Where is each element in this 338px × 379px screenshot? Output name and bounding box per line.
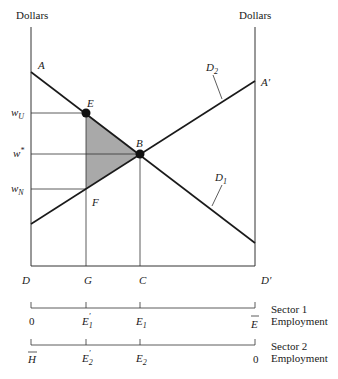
- sector1-title-line1: Sector 1: [271, 303, 307, 315]
- sector2-tick-E2-prime: E2′: [81, 349, 93, 367]
- sector1-title-line2: Employment: [271, 315, 328, 327]
- deadweight-loss-triangle: [86, 113, 140, 189]
- point-B-dot: [136, 150, 145, 159]
- sector2-title-line2: Employment: [271, 352, 328, 364]
- sector2-scale: [31, 339, 255, 345]
- sector1-tick-0: 0: [29, 315, 35, 327]
- label-wU: wU: [11, 106, 25, 121]
- sector2-tick-E2: E2: [135, 352, 147, 367]
- left-axis-title: Dollars: [16, 9, 48, 21]
- sector1-tick-E1-prime: E1′: [81, 312, 93, 330]
- label-D2: D2: [205, 61, 218, 76]
- label-wstar: w*: [13, 146, 24, 159]
- label-D: D: [21, 274, 30, 286]
- D2-leader: [213, 75, 222, 99]
- label-D-prime: D′: [260, 274, 272, 286]
- sector2-tick-Hbar: H: [27, 353, 37, 365]
- label-A: A: [37, 59, 45, 71]
- label-E: E: [86, 97, 94, 109]
- sector2-title-line1: Sector 2: [271, 340, 307, 352]
- label-G: G: [84, 274, 92, 286]
- sector1-tick-E1: E1: [135, 315, 147, 330]
- point-E-dot: [82, 109, 91, 118]
- label-C: C: [139, 274, 147, 286]
- label-D1: D1: [214, 171, 227, 186]
- sector1-tick-Ebar: E: [250, 318, 258, 330]
- sector2-tick-0: 0: [253, 353, 259, 365]
- label-B: B: [136, 137, 143, 149]
- D1-leader: [212, 185, 222, 206]
- right-axis-title: Dollars: [239, 9, 271, 21]
- label-wN: wN: [11, 182, 24, 197]
- label-F: F: [91, 196, 99, 208]
- two-sector-labor-market-diagram: Dollars Dollars A A′ E B F D G C D′ D2 D…: [0, 0, 338, 379]
- label-A-prime: A′: [260, 76, 271, 88]
- sector1-scale: [31, 302, 255, 308]
